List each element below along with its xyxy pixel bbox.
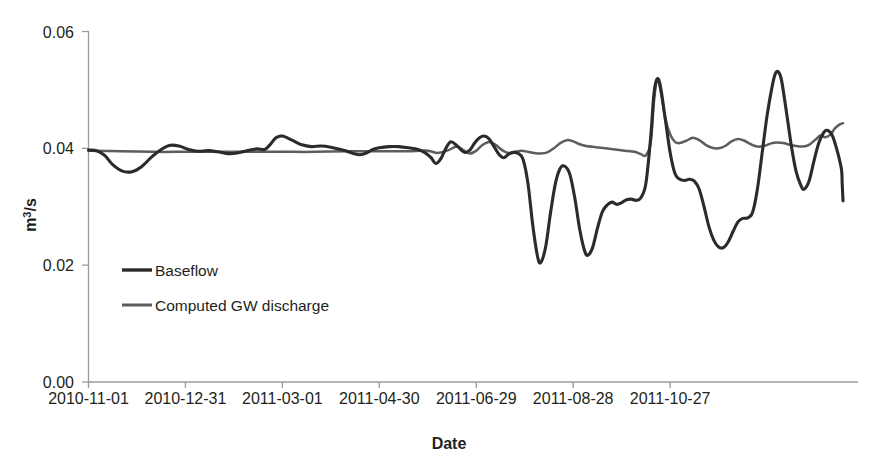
line-chart: 0.000.020.040.06 2010-11-012010-12-31201… [0, 0, 869, 459]
y-tick-label: 0.00 [43, 374, 74, 391]
y-axis-tick-labels: 0.000.020.040.06 [43, 24, 74, 392]
series-line-baseflow [89, 71, 844, 263]
y-axis-title-main: m [22, 218, 39, 232]
x-tick-label: 2011-04-30 [339, 390, 420, 407]
x-axis-tick-labels: 2010-11-012010-12-312011-03-012011-04-30… [48, 390, 710, 407]
series-line-computed-gw-discharge [89, 79, 844, 156]
x-axis-title: Date [432, 435, 467, 452]
chart-container: 0.000.020.040.06 2010-11-012010-12-31201… [0, 0, 869, 459]
series-group [89, 71, 844, 263]
chart-legend: BaseflowComputed GW discharge [122, 262, 329, 314]
x-tick-label: 2011-10-27 [630, 390, 711, 407]
legend-label: Baseflow [155, 262, 219, 279]
x-tick-label: 2010-11-01 [48, 390, 129, 407]
x-tick-label: 2011-03-01 [242, 390, 323, 407]
y-tick-label: 0.02 [43, 257, 74, 274]
legend-label: Computed GW discharge [155, 297, 329, 314]
y-axis-title: m3/s [21, 198, 39, 232]
y-tick-label: 0.06 [43, 24, 74, 41]
x-tick-label: 2011-06-29 [436, 390, 517, 407]
axis-tick-marks [82, 32, 670, 389]
y-axis-title-tail: /s [22, 198, 39, 211]
x-tick-label: 2010-12-31 [145, 390, 227, 407]
y-tick-label: 0.04 [43, 140, 74, 157]
x-tick-label: 2011-08-28 [533, 390, 614, 407]
